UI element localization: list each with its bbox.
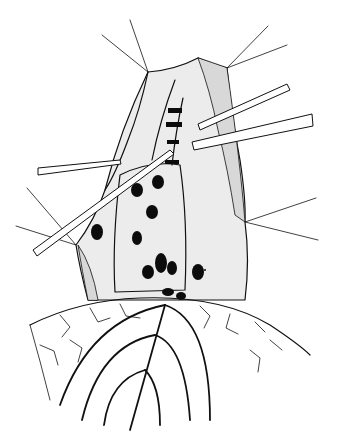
branching-vessels [60,305,210,430]
surgical-illustration [0,0,338,448]
reticulated-surface [30,298,310,400]
